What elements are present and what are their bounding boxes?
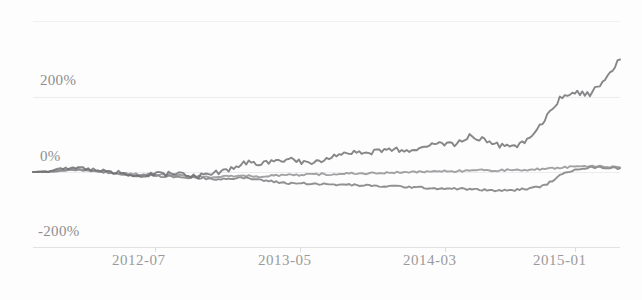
chart-screenshot: 200% 0% -200% 2012-07 2013-05 2014-03 20… bbox=[0, 0, 642, 300]
line-series-2 bbox=[33, 166, 620, 178]
line-series-1 bbox=[33, 60, 620, 179]
series-lines bbox=[0, 0, 642, 300]
plot-area: 200% 0% -200% 2012-07 2013-05 2014-03 20… bbox=[0, 0, 642, 300]
